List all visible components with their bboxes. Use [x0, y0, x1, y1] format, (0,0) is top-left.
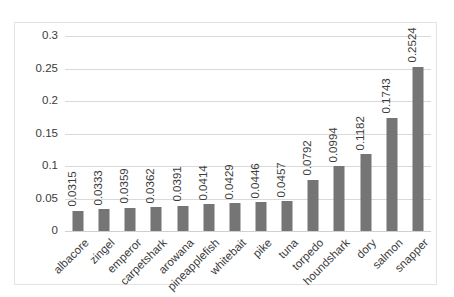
bar-slot: 0.0792: [300, 36, 326, 231]
bar[interactable]: [386, 118, 397, 231]
plot-area: 00.050.10.150.20.250.3 0.03150.03330.035…: [65, 36, 431, 231]
bar-slot: 0.0391: [170, 36, 196, 231]
gridline: [65, 231, 431, 232]
bar-value-label: 0.1182: [354, 116, 366, 150]
bar[interactable]: [282, 201, 293, 231]
bar-slot: 0.0333: [91, 36, 117, 231]
bar-value-label: 0.0362: [145, 168, 157, 203]
category-label: albacore: [52, 237, 91, 276]
bar[interactable]: [334, 166, 345, 231]
y-tick-label: 0.1: [42, 160, 58, 172]
bar-value-label: 0.0414: [197, 165, 209, 200]
y-tick-label: 0.05: [36, 193, 58, 205]
y-tick-label: 0: [52, 225, 58, 237]
bar[interactable]: [99, 209, 110, 231]
bar[interactable]: [203, 204, 214, 231]
bar-slot: 0.0429: [222, 36, 248, 231]
bar-slot: 0.1182: [353, 36, 379, 231]
bar-slot: 0.1743: [379, 36, 405, 231]
category-label: pike: [251, 237, 274, 260]
bar-value-label: 0.0457: [276, 162, 288, 197]
bar-value-label: 0.0359: [119, 168, 131, 203]
y-tick-label: 0.25: [36, 63, 58, 75]
bar-slot: 0.0362: [143, 36, 169, 231]
bar-slot: 0.0359: [117, 36, 143, 231]
bar[interactable]: [256, 202, 267, 231]
bar[interactable]: [151, 207, 162, 231]
bars: 0.03150.03330.03590.03620.03910.04140.04…: [65, 36, 431, 231]
bar[interactable]: [177, 206, 188, 231]
bar-slot: 0.0457: [274, 36, 300, 231]
y-tick-label: 0.2: [42, 95, 58, 107]
bar-value-label: 0.0391: [171, 166, 183, 201]
bar[interactable]: [229, 203, 240, 231]
bar-slot: 0.0446: [248, 36, 274, 231]
bar-value-label: 0.0792: [302, 140, 314, 175]
bar-chart: 00.050.10.150.20.250.3 0.03150.03330.035…: [0, 0, 454, 297]
bar-value-label: 0.2524: [406, 28, 418, 63]
bar-value-label: 0.1743: [380, 79, 392, 114]
bar-value-label: 0.0429: [223, 164, 235, 199]
bar-slot: 0.2524: [405, 36, 431, 231]
bar[interactable]: [308, 180, 319, 231]
bar-value-label: 0.0333: [93, 170, 105, 205]
bar-slot: 0.0994: [326, 36, 352, 231]
bar[interactable]: [412, 67, 423, 231]
bar-slot: 0.0414: [196, 36, 222, 231]
y-tick-label: 0.3: [42, 30, 58, 42]
y-tick-label: 0.15: [36, 128, 58, 140]
bar-value-label: 0.0994: [328, 127, 340, 162]
bar[interactable]: [73, 211, 84, 231]
chart-frame: 00.050.10.150.20.250.3 0.03150.03330.035…: [14, 22, 437, 285]
bar-slot: 0.0315: [65, 36, 91, 231]
bar-value-label: 0.0315: [67, 171, 79, 206]
bar-value-label: 0.0446: [250, 163, 262, 198]
bar[interactable]: [125, 208, 136, 231]
bar[interactable]: [360, 154, 371, 231]
